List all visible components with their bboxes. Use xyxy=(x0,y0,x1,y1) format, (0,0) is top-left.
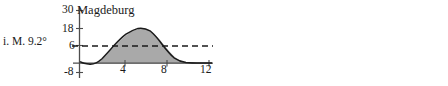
temperature-curves-figure: Magdeburg i. M. 9.2° 30 18 6 -8 4 8 12 xyxy=(0,0,448,86)
jakutsk-plot-area xyxy=(0,0,224,86)
chart-panel-jakutsk: Jakutsk i. M. -10.2° 30 8 -8 -30 -44 4 8… xyxy=(224,0,448,86)
